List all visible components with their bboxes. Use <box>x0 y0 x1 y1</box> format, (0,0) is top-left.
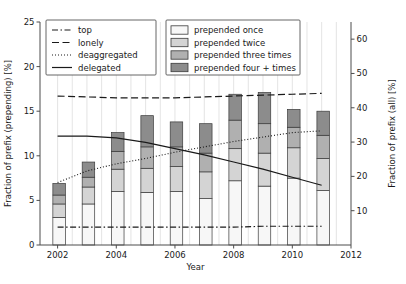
bar-segment <box>229 149 242 181</box>
legend-bar-swatch-2 <box>171 51 188 59</box>
bar-segment <box>200 199 213 245</box>
ytick-label: 0 <box>29 240 34 250</box>
bar-segment <box>170 167 183 192</box>
bar-segment <box>53 195 66 204</box>
bar-segment <box>53 217 66 245</box>
ytick-label: 25 <box>24 17 35 27</box>
y-axis-title: Fraction of prefix (prepending) [%] <box>3 60 13 207</box>
bar-segment <box>53 183 66 195</box>
y2tick-label: 40 <box>357 103 368 113</box>
xtick-label: 2004 <box>105 250 127 260</box>
y2tick-label: 20 <box>357 171 368 181</box>
bar-segment <box>317 158 330 190</box>
bar-segment <box>258 124 271 153</box>
bar-segment <box>258 186 271 245</box>
bar-segment <box>258 92 271 123</box>
bar-segment <box>141 168 154 192</box>
bar-segment <box>82 162 95 177</box>
bar-segment <box>288 127 301 148</box>
xtick-label: 2006 <box>164 250 186 260</box>
xtick-label: 2002 <box>47 250 69 260</box>
legend-bar-swatch-1 <box>171 38 188 46</box>
bar-segment <box>82 204 95 245</box>
ytick-label: 20 <box>24 62 35 72</box>
bar-segment <box>82 187 95 204</box>
bar-segment <box>200 172 213 199</box>
xtick-label: 2010 <box>282 250 304 260</box>
x-axis-title: Year <box>186 262 206 272</box>
bar-segment <box>141 192 154 245</box>
bar-segment <box>229 94 242 120</box>
legend-bars-label: prepended three times <box>194 50 292 60</box>
y2tick-label: 50 <box>357 68 368 78</box>
bar-segment <box>82 177 95 187</box>
legend-bars-label: prepended twice <box>194 38 265 48</box>
xtick-label: 2012 <box>340 250 362 260</box>
bar-segment <box>112 151 125 169</box>
bar-segment <box>170 122 183 147</box>
legend-lines-label: top <box>78 25 92 35</box>
bar-segment <box>200 124 213 153</box>
y2tick-label: 30 <box>357 137 368 147</box>
ytick-label: 10 <box>24 151 35 161</box>
bar-segment <box>170 191 183 245</box>
ytick-label: 5 <box>29 195 34 205</box>
legend-bars-label: prepended once <box>194 25 263 35</box>
bar-segment <box>317 111 330 135</box>
chart-figure: 200220042006200820102012Year0510152025Fr… <box>0 0 406 284</box>
y2tick-label: 60 <box>357 34 368 44</box>
bar-segment <box>288 148 301 178</box>
legend-lines-label: lonely <box>78 38 104 48</box>
legend-bars-label: prepended four + times <box>194 63 296 73</box>
legend-bar-swatch-0 <box>171 26 188 34</box>
legend-bar-swatch-3 <box>171 63 188 71</box>
bar-segment <box>53 204 66 217</box>
bar-segment <box>141 147 154 168</box>
bar-segment <box>112 191 125 245</box>
chart-canvas: 200220042006200820102012Year0510152025Fr… <box>0 0 406 284</box>
y2-axis-title: Fraction of prefix (all) [%] <box>387 79 397 188</box>
bar-segment <box>112 133 125 152</box>
bar-segment <box>317 135 330 158</box>
y2tick-label: 10 <box>357 206 368 216</box>
bar-segment <box>112 169 125 191</box>
bar-segment <box>288 109 301 127</box>
legend-lines-label: deaggregated <box>78 50 138 60</box>
legend-lines-label: delegated <box>78 63 121 73</box>
bar-segment <box>229 120 242 149</box>
bar-segment <box>288 178 301 245</box>
bar-segment <box>317 191 330 245</box>
xtick-label: 2008 <box>223 250 245 260</box>
bar-segment <box>229 181 242 245</box>
ytick-label: 15 <box>24 106 35 116</box>
